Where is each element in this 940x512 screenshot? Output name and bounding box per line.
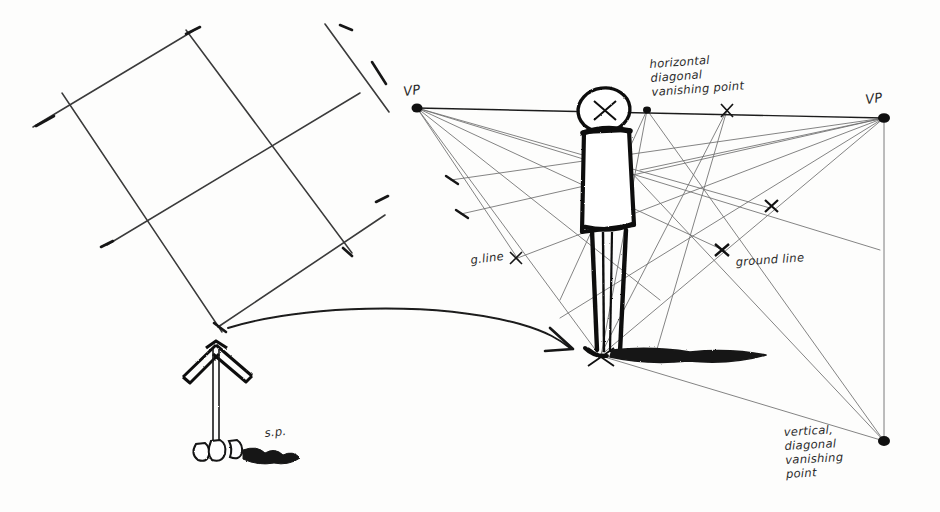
perspective-sketch-svg: s.p. — [0, 0, 940, 512]
convergence-lines — [417, 108, 884, 441]
vp-left-dot — [412, 103, 423, 112]
vp-right-label: VP — [864, 90, 883, 107]
vp-right-dot — [878, 113, 890, 123]
foot-right — [229, 440, 242, 458]
horizontal-dvp-label: horizontal diagonal vanishing point — [649, 51, 745, 99]
figure-shadow — [610, 348, 766, 362]
station-point-label: s.p. — [264, 424, 287, 440]
grid-tick-3 — [340, 25, 352, 30]
ray-right-3 — [515, 118, 884, 259]
grid-line-a1 — [33, 31, 193, 127]
vdvp-line-3: vanishing — [785, 450, 844, 467]
tick-a — [446, 176, 458, 184]
grid-tick-4 — [372, 62, 386, 84]
figure-leg-left-inner — [603, 232, 604, 352]
grid-line-b2 — [186, 30, 352, 253]
grid-tick-8 — [214, 323, 226, 332]
ray-right-6 — [640, 118, 884, 170]
grid-line-a2 — [107, 93, 360, 245]
grid-tick-2 — [186, 27, 200, 34]
ray-right-1 — [451, 118, 884, 180]
ray-vdvp-1 — [647, 110, 884, 441]
curved-arrow-shaft — [228, 309, 570, 348]
sight-line-shaft — [213, 349, 219, 443]
ray-hdvp-2 — [655, 110, 727, 356]
ray-left-5 — [417, 108, 520, 262]
figure-torso — [582, 130, 634, 232]
grid-tick-1 — [36, 116, 54, 126]
grid-line-a3 — [218, 215, 385, 327]
station-shadow — [243, 448, 300, 464]
grid-line-b3 — [325, 24, 389, 112]
figure-leg-left — [592, 230, 597, 350]
ground-line-label: ground line — [735, 250, 804, 269]
upper-cross-x-mark — [765, 200, 778, 212]
view-cone — [183, 341, 252, 443]
horizon-mid-dot — [643, 107, 651, 114]
tick-b — [456, 210, 468, 218]
foot-mid — [209, 440, 226, 461]
vp-left-label: VP — [402, 82, 421, 99]
vertical-dvp-label: vertical, diagonal vanishing point — [782, 422, 844, 481]
vertical-dvp-dot — [878, 436, 890, 446]
vanishing-point-markers — [412, 103, 891, 446]
ray-left-4 — [417, 108, 600, 356]
grid-tick-7 — [376, 196, 388, 202]
ray-end-ticks — [446, 176, 468, 218]
ray-right-4 — [600, 118, 884, 356]
figure — [576, 85, 766, 362]
ray-right-2 — [461, 118, 884, 214]
grid-tick-5 — [101, 241, 113, 247]
g-line-x-mark — [510, 252, 522, 264]
station-point-feet — [193, 440, 300, 464]
ray-vdvp-2 — [601, 356, 884, 441]
grid-line-b1 — [62, 93, 222, 332]
foot-left — [193, 443, 209, 461]
vdvp-line-4: point — [785, 465, 818, 481]
sketch-canvas: s.p. — [0, 0, 940, 512]
left-grid — [33, 24, 389, 332]
g-line-label: g.line — [470, 249, 505, 267]
curved-arrow — [228, 309, 573, 351]
